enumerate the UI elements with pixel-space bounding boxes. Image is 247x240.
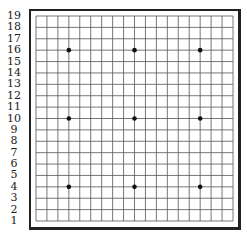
star-point-icon	[132, 185, 137, 190]
star-point-icon	[198, 48, 203, 53]
star-point-icon	[132, 116, 137, 121]
star-point-icon	[198, 116, 203, 121]
go-board[interactable]	[0, 0, 247, 240]
star-point-icon	[132, 48, 137, 53]
star-point-icon	[67, 116, 72, 121]
star-point-icon	[67, 185, 72, 190]
star-point-icon	[198, 185, 203, 190]
star-point-icon	[67, 48, 72, 53]
